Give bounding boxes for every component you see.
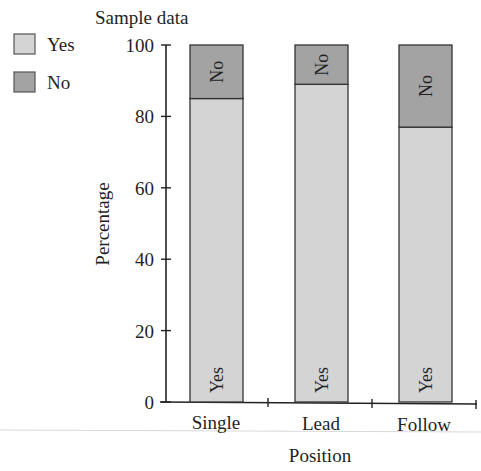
bar-segment-label-no: No <box>312 54 332 76</box>
legend-item-yes: Yes <box>14 34 75 55</box>
legend-swatch-no <box>14 72 35 92</box>
bar-segment-label-yes: Yes <box>416 367 436 393</box>
x-category-labels: Single Lead Follow <box>192 412 451 435</box>
x-axis-title: Position <box>289 445 352 466</box>
y-tick-label: 60 <box>135 178 154 199</box>
y-tick-label: 20 <box>135 321 154 342</box>
category-label-lead: Lead <box>302 413 340 434</box>
y-tick-label: 80 <box>135 106 154 127</box>
y-axis: 020406080100 <box>126 35 172 413</box>
legend: Yes No <box>14 34 75 93</box>
legend-swatch-yes <box>14 34 35 54</box>
category-label-single: Single <box>192 412 241 433</box>
bar-lead: YesNo <box>295 45 348 402</box>
bar-segment-label-yes: Yes <box>312 367 332 393</box>
bar-segment-label-yes: Yes <box>207 367 227 393</box>
bar-single: YesNo <box>190 45 243 402</box>
bar-segment-yes <box>295 84 348 402</box>
category-label-follow: Follow <box>397 414 451 435</box>
legend-label-yes: Yes <box>47 34 75 55</box>
y-tick-label: 100 <box>126 35 155 56</box>
chart-title: Sample data <box>95 7 189 28</box>
bar-follow: YesNo <box>399 45 452 402</box>
bar-segment-label-no: No <box>416 75 436 97</box>
y-axis-title: Percentage <box>92 182 113 265</box>
stacked-bar-chart: Sample data Yes No Percentage 0204060801… <box>0 0 481 471</box>
y-ticks: 020406080100 <box>126 35 172 413</box>
bar-segment-yes <box>399 127 452 402</box>
y-tick-label: 0 <box>145 392 155 413</box>
legend-item-no: No <box>14 72 70 93</box>
bar-segment-yes <box>190 99 243 402</box>
bars: YesNoYesNoYesNo <box>190 45 452 402</box>
bar-segment-label-no: No <box>207 61 227 83</box>
y-tick-label: 40 <box>135 249 154 270</box>
legend-label-no: No <box>47 72 70 93</box>
